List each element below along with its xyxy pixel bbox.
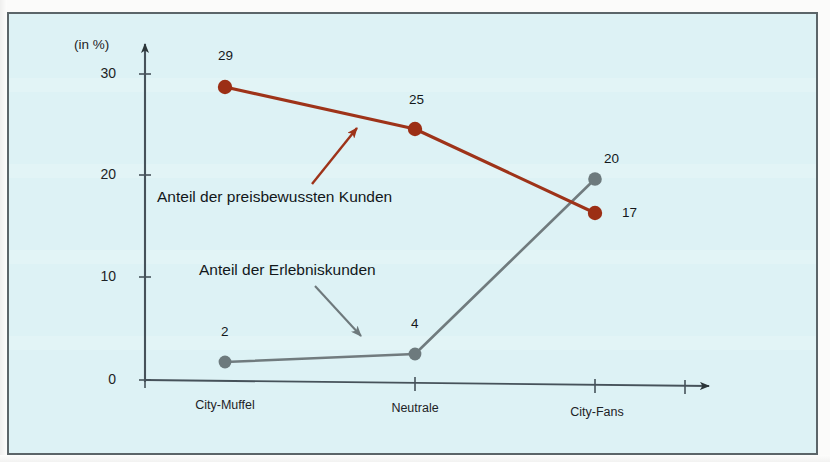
annotation-arrow-erlebniskunden [315,286,361,336]
series-point-preisbewusste-2 [588,206,602,220]
x-category-label-city-fans: City-Fans [537,406,657,419]
annotation-arrow-preisbewusste [312,128,357,184]
plot-area [9,14,820,457]
series-point-erlebniskunden-2 [588,172,602,186]
series-point-erlebniskunden-1 [409,348,422,361]
chart-frame: (in %) 30 20 10 0 City-Muffel Neutrale C… [7,12,818,455]
value-label-erlebniskunden-0: 2 [221,325,229,339]
x-axis [145,380,709,386]
value-label-erlebniskunden-2: 20 [604,152,619,166]
y-tick-label-0: 0 [88,372,116,386]
y-tick-label-30: 30 [88,66,116,80]
value-label-preisbewusste-0: 29 [218,49,233,63]
value-label-erlebniskunden-1: 4 [411,317,419,331]
y-axis-unit-label: (in %) [74,38,109,52]
series-point-preisbewusste-0 [218,80,232,94]
annotation-label-preisbewusste: Anteil der preisbewussten Kunden [157,189,392,205]
value-label-preisbewusste-1: 25 [409,93,424,107]
page-left-edge [0,0,7,462]
y-tick-label-10: 10 [88,269,116,283]
annotation-label-erlebniskunden: Anteil der Erlebniskunden [199,262,376,278]
x-category-label-city-muffel: City-Muffel [155,399,295,412]
y-tick-label-20: 20 [88,167,116,181]
series-point-erlebniskunden-0 [219,356,232,369]
x-category-label-neutrale: Neutrale [355,402,475,415]
series-point-preisbewusste-1 [408,122,422,136]
value-label-preisbewusste-2: 17 [622,206,637,220]
chart-screenshot: (in %) 30 20 10 0 City-Muffel Neutrale C… [0,0,830,462]
